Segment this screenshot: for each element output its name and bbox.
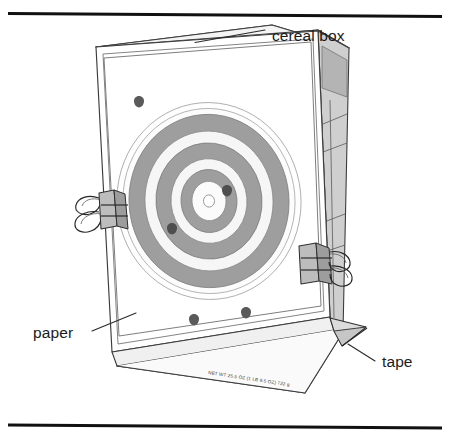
diagram-canvas: NET WT 25.5 OZ (1 LB 9.5 OZ) 722 g [0, 0, 451, 442]
label-cereal-box: cereal box [272, 27, 345, 44]
label-paper: paper [33, 324, 73, 341]
figure-container: NET WT 25.5 OZ (1 LB 9.5 OZ) 722 g [0, 0, 451, 442]
label-tape: tape [382, 353, 413, 370]
